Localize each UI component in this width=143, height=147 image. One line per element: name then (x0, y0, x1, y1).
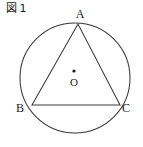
circle-center-label: O (70, 76, 78, 88)
figure-container: 図1 O A B C (0, 0, 143, 147)
vertex-label-a: A (76, 7, 85, 21)
vertex-label-b: B (16, 101, 24, 115)
geometry-diagram: O A B C (0, 0, 143, 147)
vertex-label-c: C (122, 101, 130, 115)
circle-center-dot (72, 69, 75, 72)
inscribed-triangle (32, 24, 120, 105)
